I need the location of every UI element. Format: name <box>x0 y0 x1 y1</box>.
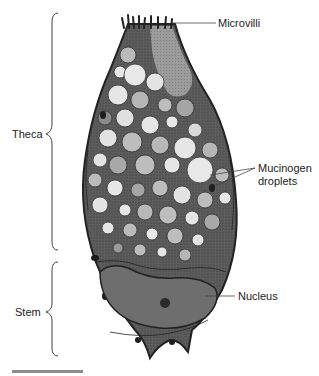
cell-illustration <box>0 0 319 376</box>
label-mucinogen-line1: Mucinogen <box>258 162 312 175</box>
nucleolus <box>160 298 170 308</box>
label-microvilli: Microvilli <box>218 17 260 30</box>
goblet-cell-diagram: Microvilli Mucinogen droplets Nucleus Th… <box>0 0 319 376</box>
label-mucinogen-line2: droplets <box>258 175 297 188</box>
label-nucleus: Nucleus <box>238 290 278 303</box>
stem-bracket <box>46 262 58 356</box>
label-theca: Theca <box>12 128 43 141</box>
theca-bracket <box>46 13 58 250</box>
scale-bar <box>12 370 83 373</box>
label-stem: Stem <box>15 306 41 319</box>
